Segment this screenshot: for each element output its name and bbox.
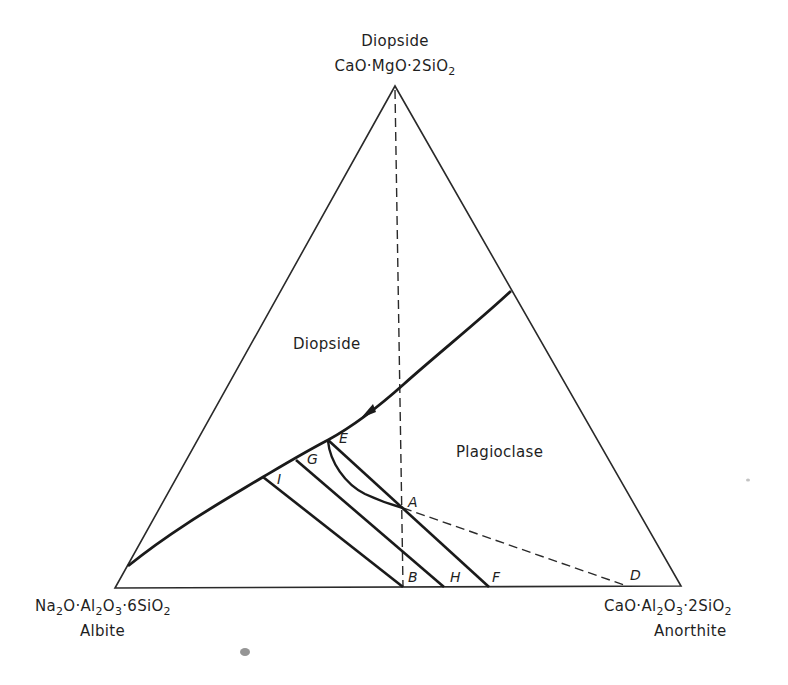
point-label-B: B bbox=[408, 569, 418, 585]
dashed-line-apex-to-B bbox=[395, 90, 403, 587]
point-label-A: A bbox=[408, 494, 418, 510]
vertex-top-name: Diopside bbox=[335, 32, 455, 50]
point-label-E: E bbox=[339, 430, 348, 446]
arrow-icon bbox=[361, 404, 376, 418]
triangle-outline bbox=[115, 86, 681, 588]
dashed-line-A-to-D bbox=[403, 508, 627, 586]
field-label-diopside: Diopside bbox=[293, 335, 361, 353]
point-label-H: H bbox=[450, 569, 461, 585]
vertex-bottom-left-name: Albite bbox=[80, 622, 125, 640]
point-label-G: G bbox=[307, 451, 318, 467]
cotectic-boundary-curve bbox=[128, 291, 511, 566]
point-label-D: D bbox=[630, 567, 641, 583]
line-I-to-B bbox=[263, 477, 403, 587]
line-E-A-F bbox=[328, 440, 489, 587]
field-label-plagioclase: Plagioclase bbox=[456, 443, 543, 461]
smudge-mark bbox=[240, 648, 250, 656]
vertex-bottom-right-name: Anorthite bbox=[654, 622, 726, 640]
point-label-I: I bbox=[277, 471, 281, 487]
smudge-mark bbox=[746, 479, 750, 482]
vertex-top-formula: CaO·MgO·2SiO2 bbox=[300, 57, 490, 75]
ternary-phase-diagram bbox=[0, 0, 788, 685]
vertex-bottom-right-formula: CaO·Al2O3·2SiO2 bbox=[604, 597, 732, 615]
point-label-F: F bbox=[492, 569, 500, 585]
vertex-bottom-left-formula: Na2O·Al2O3·6SiO2 bbox=[35, 597, 171, 615]
